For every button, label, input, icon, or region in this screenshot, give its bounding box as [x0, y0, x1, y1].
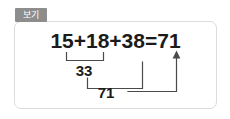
- example-label-text: 보기: [23, 11, 39, 20]
- figure-root: 보기 15+18+38=71 33 71: [0, 0, 230, 119]
- first-partial-sum-value: 33: [62, 63, 106, 78]
- example-label-tab: 보기: [15, 8, 47, 22]
- second-partial-sum-value: 71: [84, 85, 128, 100]
- equation-expression: 15+18+38=71: [14, 30, 217, 52]
